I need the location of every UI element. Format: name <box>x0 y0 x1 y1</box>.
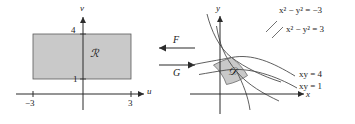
u-tick-label-positive-3: 3 <box>128 99 133 108</box>
uv-plane-group <box>16 17 144 110</box>
u-tick-label-negative-3: −3 <box>25 99 35 108</box>
curve-label-hyperbola-positive: x² − y² = 3 <box>286 25 324 34</box>
diagram-svg <box>0 0 355 124</box>
x-axis-label: x <box>306 90 310 99</box>
leader-hyp-pos3 <box>272 27 283 38</box>
v-tick-label-4: 4 <box>71 26 76 35</box>
v-axis-label: v <box>80 4 84 13</box>
curve-label-xy-upper: xy = 4 <box>299 70 322 79</box>
mapping-F-label: F <box>173 35 179 45</box>
u-axis-label: u <box>147 87 152 96</box>
mapping-G-label: G <box>173 68 180 78</box>
mapping-arrows-group <box>159 48 195 65</box>
curve-xy-1 <box>199 69 297 88</box>
y-axis-label: y <box>216 4 220 13</box>
region-R-rectangle <box>33 34 131 79</box>
region-R-label: ℛ <box>90 48 99 59</box>
figure-canvas: v u 4 1 −3 3 ℛ F G y x 𝒟 x² − y² = −3 x²… <box>0 0 355 124</box>
label-leader-lines <box>266 21 283 38</box>
v-tick-label-1: 1 <box>73 75 78 84</box>
curve-label-xy-lower: xy = 1 <box>299 82 322 91</box>
region-D-label: 𝒟 <box>228 66 237 77</box>
curve-label-hyperbola-negative: x² − y² = −3 <box>279 6 322 15</box>
leader-hyp-neg3 <box>266 21 277 32</box>
